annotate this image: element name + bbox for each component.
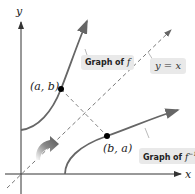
graph-f-tag-var: f bbox=[127, 57, 130, 67]
reflection-arrow-icon bbox=[36, 136, 59, 160]
line-y-equals-x-tag: y = x bbox=[150, 58, 186, 74]
curve-f bbox=[21, 21, 87, 130]
point-b-a bbox=[104, 133, 110, 139]
graph-f-tag-text: Graph of bbox=[85, 58, 127, 67]
y-axis-label: y bbox=[16, 6, 22, 17]
graph-f-inverse-tag: Graph of f−1 bbox=[139, 148, 195, 164]
line-y-equals-x bbox=[7, 30, 171, 188]
graph-f-inverse-tag-text: Graph of bbox=[143, 153, 185, 162]
x-axis-label: x bbox=[185, 169, 191, 180]
tag-pointer-finv bbox=[145, 128, 149, 138]
graph-f-inverse-tag-sup: −1 bbox=[188, 150, 195, 157]
diagram-canvas bbox=[0, 0, 195, 194]
graph-f-tag: Graph of f bbox=[81, 55, 134, 70]
point-a-b-label: (a, b) bbox=[30, 81, 59, 92]
point-b-a-label: (b, a) bbox=[103, 143, 132, 154]
